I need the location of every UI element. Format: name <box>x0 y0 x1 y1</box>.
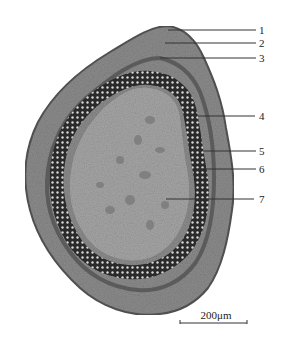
scale-bar-label: 200μm <box>186 309 246 321</box>
label-3: 3 <box>259 53 265 64</box>
label-5: 5 <box>259 146 265 157</box>
label-4: 4 <box>259 111 265 122</box>
cross-section-image <box>0 0 282 350</box>
label-7: 7 <box>259 194 265 205</box>
label-1: 1 <box>259 25 265 36</box>
label-2: 2 <box>259 38 265 49</box>
micrograph-figure: 1 2 3 4 5 6 7 200μm <box>0 0 282 350</box>
label-6: 6 <box>259 164 265 175</box>
